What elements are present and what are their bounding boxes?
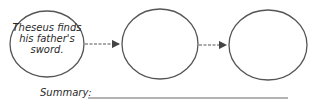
summary-label: Summary: [40, 87, 92, 98]
event-circle-2[interactable] [122, 9, 198, 79]
event-circle-3[interactable] [229, 10, 307, 80]
event-1-text: Theseus finds his father's sword. [12, 22, 82, 55]
